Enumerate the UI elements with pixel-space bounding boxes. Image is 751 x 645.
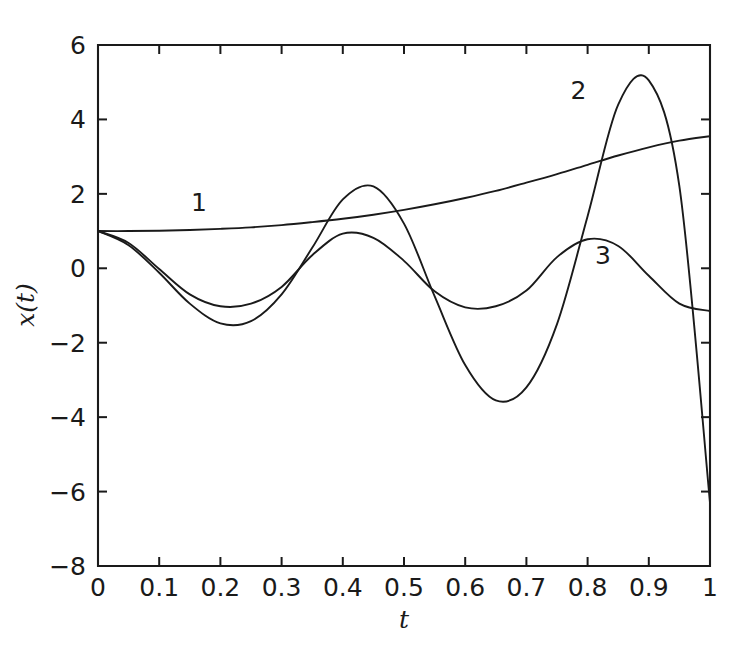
y-tick-label: 0 xyxy=(70,254,86,283)
y-tick-label: −8 xyxy=(49,552,86,581)
x-tick-label: 0.8 xyxy=(568,573,608,602)
y-axis-label: x(t) xyxy=(11,283,40,327)
y-tick-label: 4 xyxy=(70,105,86,134)
x-tick-label: 0.7 xyxy=(507,573,547,602)
x-tick-label: 0.9 xyxy=(629,573,669,602)
curve-label-2: 2 xyxy=(570,76,586,105)
x-tick-label: 0 xyxy=(90,573,106,602)
x-axis-label: t xyxy=(399,605,410,634)
x-tick-label: 0.2 xyxy=(201,573,241,602)
x-tick-label: 0.4 xyxy=(323,573,363,602)
y-tick-label: −4 xyxy=(49,403,86,432)
y-tick-label: −6 xyxy=(49,478,86,507)
curve-label-3: 3 xyxy=(595,241,611,270)
y-tick-label: −2 xyxy=(49,329,86,358)
line-chart: 00.10.20.30.40.50.60.70.80.91 6420−2−4−6… xyxy=(0,0,751,645)
y-tick-label: 6 xyxy=(70,31,86,60)
x-tick-label: 0.1 xyxy=(139,573,179,602)
x-tick-label: 0.3 xyxy=(262,573,302,602)
chart-figure: 00.10.20.30.40.50.60.70.80.91 6420−2−4−6… xyxy=(0,0,751,645)
curve-label-1: 1 xyxy=(191,188,207,217)
x-tick-label: 0.6 xyxy=(445,573,485,602)
y-tick-label: 2 xyxy=(70,180,86,209)
x-tick-label: 0.5 xyxy=(384,573,424,602)
x-tick-label: 1 xyxy=(702,573,718,602)
chart-background xyxy=(0,0,751,645)
